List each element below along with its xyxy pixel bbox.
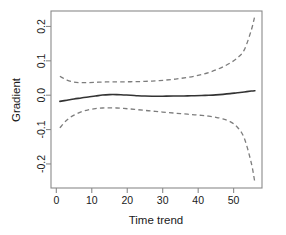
y-axis-title: Gradient <box>10 77 22 122</box>
y-tick-label: -0.2 <box>35 155 47 173</box>
y-tick-label: 0.1 <box>35 53 47 68</box>
gradient-time-trend-plot: -0.2-0.10.00.10.2 01020304050 Gradient T… <box>0 0 286 235</box>
x-tick-label: 40 <box>192 194 204 206</box>
chart-figure: -0.2-0.10.00.10.2 01020304050 Gradient T… <box>0 0 286 235</box>
x-tick-label: 50 <box>228 194 240 206</box>
x-tick-label: 20 <box>121 194 133 206</box>
y-tick-label: 0.0 <box>35 88 47 103</box>
y-tick-label: 0.2 <box>35 19 47 34</box>
y-tick-label: -0.1 <box>35 120 47 138</box>
x-tick-label: 0 <box>53 194 59 206</box>
x-tick-label: 30 <box>157 194 169 206</box>
x-axis-title: Time trend <box>129 214 184 226</box>
x-tick-label: 10 <box>86 194 98 206</box>
plot-background <box>0 0 286 235</box>
